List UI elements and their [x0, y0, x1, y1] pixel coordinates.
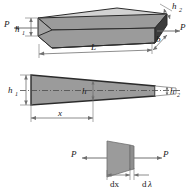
- dimension-x-label: x: [57, 108, 62, 118]
- beam-front-lower-face: [38, 28, 155, 48]
- dimension-h1-sub-elev: 1: [15, 91, 18, 97]
- element-slice: [130, 145, 134, 170]
- side-elevation-view: h 1 h h 2: [8, 75, 180, 122]
- dimension-h-label-elev: h: [82, 86, 87, 96]
- dimension-h1-label-iso: h: [15, 24, 20, 34]
- dimension-dx-label: dx: [110, 179, 120, 189]
- dimension-b-label: b: [156, 34, 161, 44]
- dimension-dlambda-label-lambda: λ: [147, 179, 152, 189]
- dimension-dlambda-label-d: d: [142, 179, 147, 189]
- element-trapezoid: [107, 141, 130, 177]
- engineering-figure: P P h 1 h: [0, 0, 189, 190]
- element-load-arrow-right: [134, 156, 162, 160]
- element-load-arrow-left: [82, 156, 107, 160]
- 3d-beam-view: P P h 1 h: [3, 1, 186, 58]
- differential-element-view: P P dx d λ: [70, 141, 169, 189]
- figure-canvas: P P h 1 h: [0, 0, 189, 190]
- dimension-h1-sub-iso: 1: [22, 30, 25, 36]
- dimension-h2-label-iso: h: [172, 1, 177, 11]
- dimension-L-label: L: [90, 42, 96, 52]
- element-load-label-right: P: [162, 149, 169, 159]
- dimension-h2-sub-elev: 2: [177, 92, 180, 98]
- dimension-h2-label-elev: h: [170, 86, 175, 96]
- dimension-h1-label-elev: h: [8, 85, 13, 95]
- dimension-h2-sub-iso: 2: [179, 7, 182, 13]
- load-label-left: P: [3, 19, 10, 29]
- load-label-right: P: [179, 22, 186, 32]
- element-load-label-left: P: [70, 149, 77, 159]
